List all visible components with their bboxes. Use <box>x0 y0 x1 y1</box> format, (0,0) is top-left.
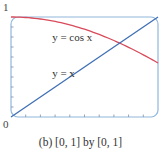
identity-line-label: y = x <box>52 67 75 79</box>
origin-tick-label: 0 <box>3 118 9 130</box>
y-axis-top-tick-label: 1 <box>3 1 9 13</box>
chart-plot: y = cos xy = x <box>0 0 161 156</box>
chart-caption: (b) [0, 1] by [0, 1] <box>0 136 161 148</box>
cos-curve-label: y = cos x <box>52 31 93 43</box>
